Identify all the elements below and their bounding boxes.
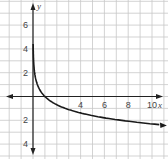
y-tick-label: 4 — [23, 44, 28, 54]
y-tick-label: 2 — [23, 68, 28, 78]
y-tick-label: 2 — [23, 115, 28, 125]
x-tick-label: 10 — [147, 100, 157, 110]
x-tick-label: 8 — [126, 100, 131, 110]
log-graph: 4681064224 x y — [0, 0, 168, 159]
x-tick-label: 6 — [102, 100, 107, 110]
x-axis-right-arrow-icon — [156, 94, 163, 99]
x-axis-label: x — [157, 100, 162, 110]
y-axis-up-arrow-icon — [31, 3, 36, 10]
y-axis-label: y — [36, 1, 41, 11]
x-tick-label: 4 — [78, 100, 83, 110]
y-axis-down-arrow-icon — [31, 148, 36, 155]
curve-arrow-icon — [160, 123, 167, 129]
y-tick-label: 6 — [23, 20, 28, 30]
y-tick-label: 4 — [23, 139, 28, 149]
